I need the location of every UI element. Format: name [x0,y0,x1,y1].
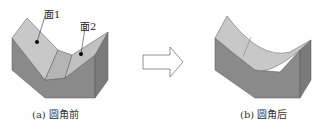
caption-before: (a) 圆角前 [32,106,79,121]
face2-label: 面2 [80,18,96,33]
caption-after: (b) 圆角后 [240,106,287,121]
face1-label: 面1 [44,6,60,21]
right-arrow-icon [143,47,183,77]
block-after-fillet [215,16,311,98]
